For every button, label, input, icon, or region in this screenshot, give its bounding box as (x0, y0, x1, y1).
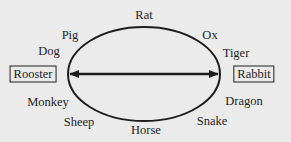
label-dog: Dog (38, 44, 60, 58)
box-rooster: Rooster (10, 66, 57, 83)
label-sheep: Sheep (64, 115, 95, 129)
zodiac-diagram: Rat Ox Tiger Rabbit Dragon Snake Horse S… (0, 0, 291, 142)
label-pig: Pig (62, 28, 79, 42)
label-horse: Horse (131, 123, 161, 137)
label-tiger: Tiger (223, 46, 250, 60)
label-snake: Snake (197, 114, 228, 128)
label-rat: Rat (135, 8, 152, 22)
label-monkey: Monkey (27, 95, 69, 109)
label-ox: Ox (202, 28, 217, 42)
label-dragon: Dragon (225, 94, 263, 108)
box-rabbit: Rabbit (233, 66, 274, 83)
